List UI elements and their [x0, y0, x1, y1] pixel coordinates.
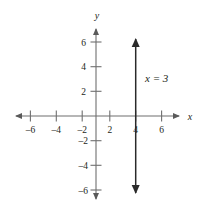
y-tick-label-4: 4 [81, 62, 86, 72]
y-tick-label--6: –6 [78, 186, 89, 196]
x-tick-label-6: 6 [159, 125, 164, 135]
x-tick-label--4: –4 [51, 125, 62, 135]
graph-figure: –6 –4 –2 2 4 6 6 4 2 –2 –4 –6 x y x = 3 [0, 0, 205, 207]
y-tick-label-2: 2 [81, 87, 86, 97]
x-tick-label--2: –2 [76, 125, 87, 135]
x-tick-label--6: –6 [25, 125, 36, 135]
coordinate-plane: –6 –4 –2 2 4 6 6 4 2 –2 –4 –6 x y x = 3 [0, 0, 205, 207]
y-tick-label--2: –2 [78, 136, 89, 146]
x-axis-tick-labels: –6 –4 –2 2 4 6 [25, 125, 165, 135]
y-tick-label-6: 6 [81, 38, 86, 48]
y-axis-label: y [94, 10, 100, 21]
x-axis-label: x [187, 111, 193, 122]
y-tick-label--4: –4 [78, 161, 89, 171]
equation-label: x = 3 [144, 72, 169, 84]
x-tick-label-2: 2 [107, 125, 112, 135]
